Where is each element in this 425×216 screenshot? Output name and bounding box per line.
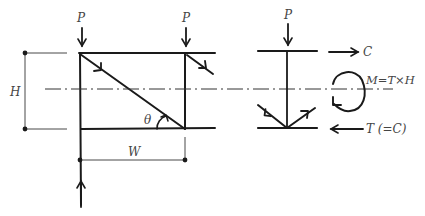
left-frame: θ P P [76, 11, 215, 207]
height-label: H [9, 85, 21, 99]
diagonal-brace [80, 54, 185, 129]
load-label-left: P [76, 11, 86, 25]
section-load-label: P [283, 8, 293, 22]
dimension-height: H [9, 51, 67, 132]
right-diagonal-stub [187, 55, 213, 74]
compression-label: C [363, 45, 372, 59]
moment-label: M=T×H [365, 73, 416, 87]
diagram-canvas: θ P P H W P [0, 0, 425, 216]
dimension-dot [78, 158, 83, 163]
tension-label: T (=C) [366, 122, 407, 136]
dimension-dot [23, 51, 28, 56]
width-label: W [128, 145, 142, 159]
left-brace-line [258, 105, 287, 128]
angle-label: θ [144, 113, 152, 127]
right-section: P C T (=C) M=T×H [258, 8, 416, 136]
dimension-dot [183, 158, 188, 163]
bottom-beam [81, 128, 215, 129]
load-label-right: P [181, 11, 191, 25]
dimension-dot [23, 127, 28, 132]
angle-arc [157, 116, 166, 129]
dimension-width: W [78, 137, 188, 162]
